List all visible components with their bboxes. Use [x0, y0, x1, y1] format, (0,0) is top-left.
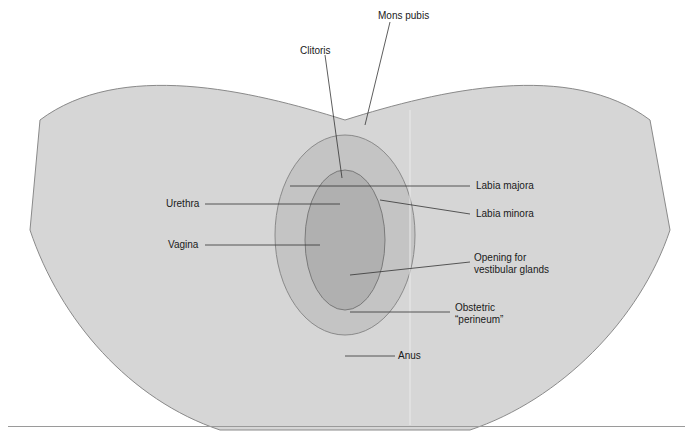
label-labia-minora: Labia minora: [476, 208, 534, 220]
schematic-illustration: [0, 0, 693, 444]
label-mons-pubis: Mons pubis: [378, 10, 429, 22]
label-vestibular-glands: Opening for vestibular glands: [474, 252, 554, 275]
label-anus: Anus: [398, 350, 421, 362]
label-obstetric-perineum: Obstetric “perineum”: [455, 302, 525, 325]
label-urethra: Urethra: [166, 198, 199, 210]
label-labia-majora: Labia majora: [476, 180, 534, 192]
bottom-rule: [8, 426, 685, 427]
diagram-canvas: Mons pubis Clitoris Labia majora Urethra…: [0, 0, 693, 444]
label-vagina: Vagina: [168, 239, 198, 251]
label-clitoris: Clitoris: [300, 45, 331, 57]
